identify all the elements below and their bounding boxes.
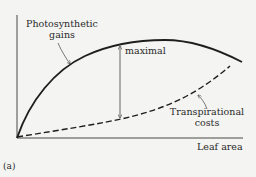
transpirational-costs-label: Transpirational costs bbox=[168, 106, 246, 128]
label-line: costs bbox=[168, 117, 246, 128]
photosynthetic-pointer-arrow bbox=[58, 43, 70, 64]
maximal-label: maximal bbox=[125, 45, 166, 56]
x-axis-label: Leaf area bbox=[197, 141, 243, 152]
label-line: gains bbox=[22, 29, 102, 40]
panel-label: (a) bbox=[3, 161, 15, 172]
label-line: Photosynthetic bbox=[22, 18, 102, 29]
label-line: Transpirational bbox=[168, 106, 246, 117]
photosynthetic-gains-label: Photosynthetic gains bbox=[22, 18, 102, 40]
